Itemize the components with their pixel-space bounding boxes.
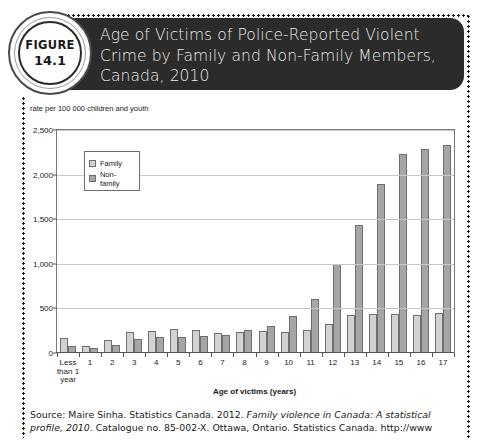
figure-badge: FIGURE 14.1 <box>8 11 92 95</box>
source-suffix: . Catalogue no. 85-002-X. Ottawa, Ontari… <box>90 422 432 433</box>
x-tick-mark <box>256 353 257 357</box>
bar-group <box>388 130 410 353</box>
gridline <box>57 130 454 131</box>
bar-group <box>344 130 366 353</box>
gridline <box>57 219 454 220</box>
y-tick-mark <box>53 174 57 175</box>
x-tick-label: 11 <box>306 359 314 368</box>
x-tick-label: 17 <box>439 359 448 368</box>
bar-family <box>369 314 377 353</box>
bar-group <box>189 130 211 353</box>
bar-family <box>281 332 289 353</box>
bar-nonfamily <box>443 145 451 353</box>
bar-nonfamily <box>156 337 164 353</box>
y-tick-label: 1,500 <box>33 215 53 224</box>
bar-group <box>322 130 344 353</box>
x-tick-mark <box>189 353 190 357</box>
gridline <box>57 264 454 265</box>
bar-nonfamily <box>399 154 407 353</box>
x-tick-label: 4 <box>154 359 158 368</box>
bar-group <box>167 130 189 353</box>
bar-family <box>303 330 311 353</box>
bar-group <box>432 130 454 353</box>
x-tick-label: 1 <box>88 359 92 368</box>
figure-header-banner: Age of Victims of Police-Reported Violen… <box>62 18 464 90</box>
decorative-dotted-border-top <box>56 14 468 17</box>
figure-badge-word: FIGURE <box>25 38 74 52</box>
x-tick-label: Less than 1 year <box>56 359 80 385</box>
x-tick-mark <box>432 353 433 357</box>
bar-family <box>259 331 267 353</box>
bar-family <box>214 333 222 353</box>
x-tick-label: 7 <box>220 359 224 368</box>
x-tick-mark <box>454 353 455 357</box>
x-tick-mark <box>278 353 279 357</box>
x-tick-mark <box>388 353 389 357</box>
bar-family <box>325 324 333 353</box>
bar-family <box>413 315 421 353</box>
source-note: Source: Maire Sinha. Statistics Canada. … <box>30 408 450 434</box>
x-tick-label: 6 <box>198 359 202 368</box>
bar-group <box>366 130 388 353</box>
bar-family <box>126 332 134 353</box>
legend-label-nonfamily: Non-family <box>100 170 135 188</box>
x-tick-label: 12 <box>328 359 337 368</box>
x-tick-mark <box>322 353 323 357</box>
bar-family <box>148 331 156 353</box>
y-tick-label: 2,500 <box>33 126 53 135</box>
y-tick-mark <box>53 130 57 131</box>
x-tick-mark <box>57 353 58 357</box>
bar-nonfamily <box>377 184 385 353</box>
bar-group <box>233 130 255 353</box>
bar-family <box>170 329 178 353</box>
x-tick-label: 15 <box>394 359 403 368</box>
x-tick-mark <box>233 353 234 357</box>
chart-container: rate per 100 000 children and youth 0500… <box>30 104 462 400</box>
legend-swatch-nonfamily-icon <box>89 175 96 182</box>
x-tick-label: 8 <box>242 359 246 368</box>
x-tick-label: 10 <box>284 359 293 368</box>
y-tick-label: 0 <box>49 349 53 358</box>
bar-nonfamily <box>244 330 252 353</box>
bar-family <box>60 338 68 353</box>
x-tick-label: 3 <box>132 359 136 368</box>
x-tick-mark <box>145 353 146 357</box>
y-tick-mark <box>53 219 57 220</box>
x-tick-label: 2 <box>110 359 114 368</box>
legend-label-family: Family <box>100 159 122 168</box>
x-tick-label: 14 <box>372 359 381 368</box>
x-tick-mark <box>211 353 212 357</box>
bar-group <box>57 130 79 353</box>
legend-item-nonfamily: Non-family <box>89 171 135 186</box>
y-tick-mark <box>53 263 57 264</box>
x-tick-label: 16 <box>416 359 425 368</box>
y-tick-label: 2,000 <box>33 170 53 179</box>
bar-group <box>211 130 233 353</box>
source-prefix: Source: Maire Sinha. Statistics Canada. … <box>30 409 247 420</box>
bar-group <box>300 130 322 353</box>
bar-nonfamily <box>200 336 208 353</box>
y-axis-title: rate per 100 000 children and youth <box>30 104 148 113</box>
x-tick-label: 5 <box>176 359 180 368</box>
decorative-dotted-border-left <box>22 96 25 438</box>
figure-badge-inner: FIGURE 14.1 <box>18 21 82 85</box>
x-tick-mark <box>79 353 80 357</box>
bar-group <box>256 130 278 353</box>
bar-family <box>192 330 200 353</box>
bar-group <box>410 130 432 353</box>
x-tick-mark <box>300 353 301 357</box>
bar-family <box>435 313 443 353</box>
bar-nonfamily <box>267 326 275 353</box>
x-axis-title: Age of victims (years) <box>56 387 453 396</box>
bar-family <box>236 332 244 353</box>
decorative-dotted-border-right <box>467 14 470 438</box>
bar-family <box>347 315 355 353</box>
y-tick-mark <box>53 308 57 309</box>
x-tick-label: 13 <box>350 359 359 368</box>
legend-swatch-family-icon <box>89 160 96 167</box>
bar-group <box>278 130 300 353</box>
bar-nonfamily <box>222 335 230 353</box>
chart-legend: Family Non-family <box>84 151 140 191</box>
bar-family <box>391 314 399 353</box>
x-tick-mark <box>366 353 367 357</box>
